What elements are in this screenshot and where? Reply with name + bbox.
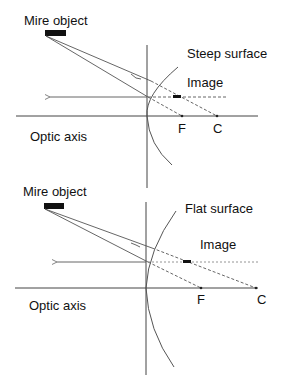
center-of-curvature-point <box>216 115 219 118</box>
ray-to-center <box>46 36 151 81</box>
image-mark <box>183 260 191 263</box>
center-of-curvature-label: C <box>257 292 266 307</box>
center-of-curvature-point <box>255 287 258 290</box>
panel-steep: Mire object Steep surface Image Optic ax… <box>16 13 267 188</box>
focal-point <box>200 287 203 290</box>
mire-object-label: Mire object <box>24 13 88 28</box>
ray-extension-focus <box>148 97 182 116</box>
optic-axis-label: Optic axis <box>29 298 87 313</box>
image-label: Image <box>187 75 223 90</box>
focal-point-label: F <box>197 292 205 307</box>
optic-axis-label: Optic axis <box>30 129 88 144</box>
ray-to-focus <box>45 209 148 262</box>
image-mark <box>173 95 181 98</box>
focal-point-label: F <box>178 121 186 136</box>
mire-object <box>45 30 66 36</box>
ray-extension-focus <box>148 262 201 288</box>
diagram: Mire object Steep surface Image Optic ax… <box>0 0 285 387</box>
surface-label: Flat surface <box>185 201 253 216</box>
center-of-curvature-label: C <box>213 121 222 136</box>
image-label: Image <box>200 237 236 252</box>
mirror-surface <box>146 211 176 367</box>
mire-object <box>44 203 64 209</box>
panel-flat: Mire object Flat surface Image Optic axi… <box>15 184 266 375</box>
ray-extension-center <box>152 248 256 288</box>
ray-to-center <box>45 209 152 248</box>
focal-point <box>181 115 184 118</box>
ray-to-focus <box>46 36 148 97</box>
mire-object-label: Mire object <box>23 184 87 199</box>
surface-label: Steep surface <box>187 46 267 61</box>
